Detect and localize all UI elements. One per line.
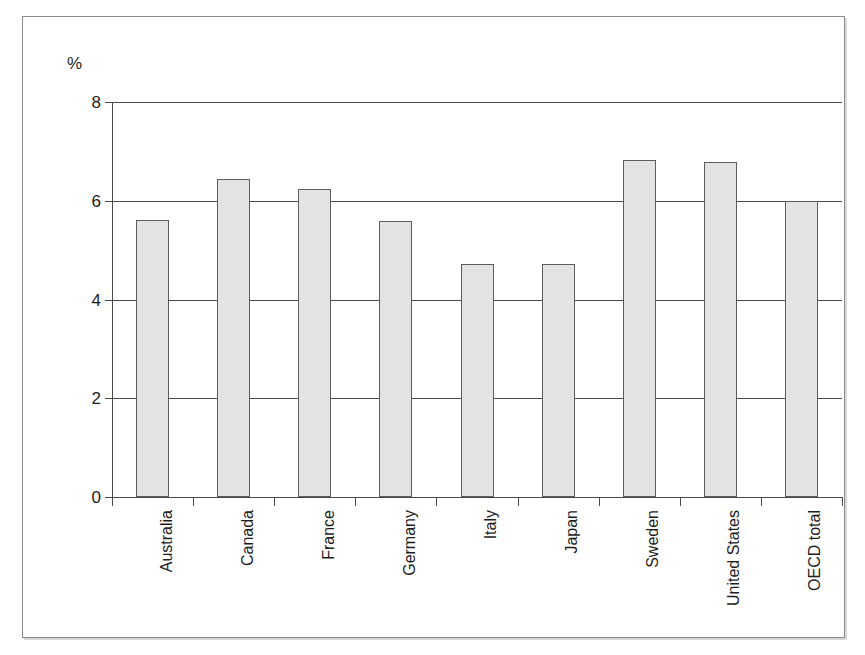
y-tick-mark — [105, 201, 112, 202]
bar-chart-plot-area: 02468AustraliaCanadaFranceGermanyItalyJa… — [112, 102, 842, 497]
x-tick-mark — [193, 497, 194, 506]
bar[interactable] — [461, 264, 494, 497]
x-category-label: Japan — [564, 510, 580, 554]
bar[interactable] — [136, 220, 169, 497]
bar[interactable] — [542, 264, 575, 497]
x-tick-mark — [274, 497, 275, 506]
x-tick-mark — [112, 497, 113, 506]
figure-frame: % 02468AustraliaCanadaFranceGermanyItaly… — [22, 16, 845, 638]
y-tick-label: 6 — [92, 192, 101, 209]
x-category-label: Italy — [483, 510, 499, 539]
bar[interactable] — [704, 162, 737, 497]
bar[interactable] — [623, 160, 656, 497]
x-tick-mark — [599, 497, 600, 506]
bar[interactable] — [217, 179, 250, 497]
y-tick-label: 0 — [92, 489, 101, 506]
y-tick-mark — [105, 102, 112, 103]
x-tick-mark — [355, 497, 356, 506]
bar[interactable] — [298, 189, 331, 497]
bar[interactable] — [379, 221, 412, 498]
x-category-label: France — [321, 510, 337, 560]
y-axis-unit-label: % — [67, 55, 82, 72]
x-tick-mark — [518, 497, 519, 506]
x-tick-mark — [842, 497, 843, 506]
x-category-label: Sweden — [645, 510, 661, 568]
x-category-label: Australia — [159, 510, 175, 572]
y-tick-label: 4 — [92, 291, 101, 308]
y-tick-label: 8 — [92, 94, 101, 111]
x-category-label: United States — [726, 510, 742, 606]
y-tick-label: 2 — [92, 390, 101, 407]
y-gridline — [112, 102, 842, 103]
y-tick-mark — [105, 300, 112, 301]
x-tick-mark — [436, 497, 437, 506]
x-category-label: OECD total — [807, 510, 823, 591]
y-tick-mark — [105, 497, 112, 498]
y-tick-mark — [105, 398, 112, 399]
x-category-label: Germany — [402, 510, 418, 576]
x-axis-baseline — [112, 497, 842, 498]
x-tick-mark — [761, 497, 762, 506]
x-category-label: Canada — [240, 510, 256, 566]
x-tick-mark — [680, 497, 681, 506]
bar[interactable] — [785, 201, 818, 497]
